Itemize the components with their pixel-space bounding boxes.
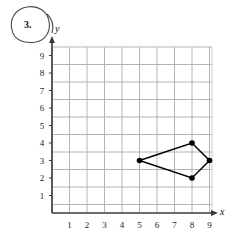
- x-tick-6: 6: [151, 220, 163, 230]
- problem-number-label: 3.: [24, 20, 32, 30]
- x-tick-7: 7: [169, 220, 181, 230]
- y-tick-1: 1: [36, 191, 48, 201]
- y-tick-8: 8: [36, 68, 48, 78]
- x-tick-2: 2: [81, 220, 93, 230]
- x-tick-9: 9: [204, 220, 216, 230]
- y-axis: [49, 36, 55, 213]
- x-axis: [52, 210, 218, 216]
- x-tick-3: 3: [99, 220, 111, 230]
- y-axis-label: y: [55, 24, 59, 34]
- y-tick-7: 7: [36, 86, 48, 96]
- y-tick-4: 4: [36, 138, 48, 148]
- coordinate-grid-figure: [0, 0, 230, 241]
- problem-number-circle-annotation: [11, 7, 52, 43]
- y-tick-5: 5: [36, 121, 48, 131]
- y-tick-3: 3: [36, 156, 48, 166]
- x-tick-1: 1: [64, 220, 76, 230]
- vertex-point: [207, 158, 213, 164]
- y-tick-6: 6: [36, 103, 48, 113]
- vertex-point: [137, 158, 143, 164]
- vertex-point: [189, 140, 195, 146]
- x-tick-5: 5: [134, 220, 146, 230]
- vertex-point: [189, 175, 195, 181]
- x-tick-8: 8: [186, 220, 198, 230]
- x-axis-label: x: [220, 207, 224, 217]
- grid-lines: [52, 47, 212, 213]
- y-tick-9: 9: [36, 51, 48, 61]
- y-tick-2: 2: [36, 173, 48, 183]
- x-tick-4: 4: [116, 220, 128, 230]
